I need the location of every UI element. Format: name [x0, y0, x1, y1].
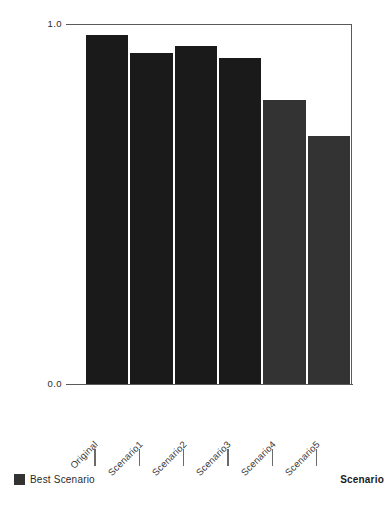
- x-axis-title: Scenario: [340, 474, 384, 485]
- bar-chart: 1.0 0.0 OriginalScenario1Scenario2Scenar…: [0, 0, 392, 518]
- legend: Best Scenario: [14, 474, 95, 485]
- legend-swatch-icon: [14, 474, 25, 485]
- x-axis-labels: OriginalScenario1Scenario2Scenario3Scena…: [0, 0, 392, 518]
- legend-label-best-scenario: Best Scenario: [30, 474, 95, 485]
